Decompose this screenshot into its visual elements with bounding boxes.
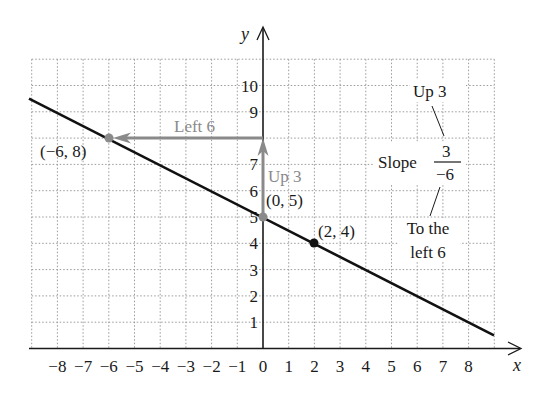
slope-up-note: Up 3	[413, 82, 447, 101]
y-tick-label: 10	[241, 77, 258, 96]
point-label-2-4: (2, 4)	[318, 222, 355, 241]
x-tick-label: −2	[203, 357, 221, 376]
x-tick-label: −5	[125, 357, 143, 376]
arrow-label-up-3: Up 3	[268, 167, 302, 186]
x-tick-label: −8	[48, 357, 66, 376]
x-tick-label: 3	[336, 357, 345, 376]
x-tick-label: −7	[74, 357, 93, 376]
x-tick-label: −1	[228, 357, 246, 376]
x-tick-label: −3	[177, 357, 195, 376]
slope-denominator: −6	[436, 165, 454, 184]
x-tick-label: 0	[259, 357, 268, 376]
slope-annotation: Up 3 Slope 3 −6 To the left 6	[374, 80, 466, 262]
y-tick-label: 1	[250, 313, 259, 332]
x-tick-label: 2	[310, 357, 319, 376]
x-tick-label: 1	[284, 357, 293, 376]
slope-numerator: 3	[442, 142, 451, 161]
x-axis	[29, 342, 521, 355]
y-tick-label: 3	[250, 261, 259, 280]
y-tick-label: 6	[250, 182, 259, 201]
x-tick-label: 7	[439, 357, 448, 376]
arrow-label-left-6: Left 6	[174, 117, 215, 136]
y-tick-label: 7	[250, 155, 259, 174]
point-label-0-5: (0, 5)	[266, 191, 303, 210]
slope-left-note-line2: left 6	[410, 243, 445, 262]
y-axis-label: y	[239, 24, 249, 44]
x-tick-label: 4	[362, 357, 371, 376]
point-0-5	[259, 213, 268, 222]
slope-left-leader	[430, 187, 440, 216]
slope-up-leader	[432, 106, 444, 136]
point-neg6-8	[105, 134, 114, 143]
x-tick-label: −4	[151, 357, 170, 376]
x-tick-label: 6	[413, 357, 422, 376]
x-tick-label: 8	[464, 357, 473, 376]
x-tick-label: −6	[100, 357, 118, 376]
y-tick-labels: 1234567910	[241, 77, 259, 333]
x-axis-label: x	[512, 355, 521, 375]
slope-word: Slope	[378, 153, 417, 172]
graph: x y −8−7−6−5−4−3−2−1012345678 1234567910…	[0, 0, 551, 399]
x-tick-label: 5	[387, 357, 396, 376]
x-tick-labels: −8−7−6−5−4−3−2−1012345678	[48, 357, 472, 376]
y-tick-label: 4	[250, 234, 259, 253]
slope-left-note-line1: To the	[407, 219, 450, 238]
point-label-neg6-8: (−6, 8)	[40, 142, 86, 161]
y-tick-label: 9	[250, 103, 259, 122]
y-tick-label: 2	[250, 287, 259, 306]
